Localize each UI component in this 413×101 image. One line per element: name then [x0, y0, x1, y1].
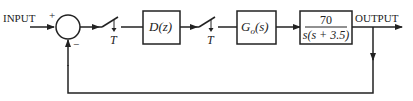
output-label: OUTPUT — [355, 12, 399, 24]
plant-numerator: 70 — [320, 13, 332, 27]
sampler-1-switch — [102, 17, 118, 27]
hold-label: Go(s) — [241, 19, 269, 36]
plant-denominator: s(s + 3.5) — [303, 28, 349, 42]
minus-sign: − — [73, 38, 79, 50]
feedback-path — [68, 58, 373, 93]
sampler-1-label: T — [110, 33, 118, 47]
plus-sign: + — [49, 9, 55, 21]
summing-junction — [56, 15, 80, 39]
sampler-2-label: T — [207, 33, 215, 47]
block-diagram: INPUT + − T D(z) T Go(s) 70 s(s + 3.5) O… — [0, 0, 413, 101]
input-label: INPUT — [3, 12, 36, 24]
controller-label: D(z) — [148, 19, 172, 34]
sampler-2-switch — [199, 17, 215, 27]
